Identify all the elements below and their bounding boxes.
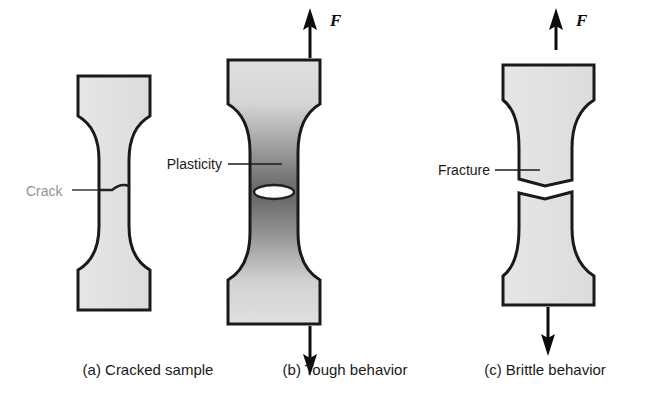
crack-label: Crack [26, 183, 64, 199]
specimen-lower-half-c [503, 192, 594, 305]
fracture-label: Fracture [438, 162, 490, 178]
panel-brittle-behavior: F Fracture (c) Brittle behavior [438, 8, 606, 378]
caption-b: (b) Tough behavior [283, 361, 408, 378]
force-label-b-top: F [329, 11, 342, 30]
panel-tough-behavior: F Plasticity (b) Tough behavior [167, 8, 408, 378]
caption-a: (a) Cracked sample [83, 361, 214, 378]
panel-cracked-sample: Crack (a) Cracked sample [26, 76, 213, 378]
blunted-crack-opening-b [254, 185, 294, 199]
plasticity-label: Plasticity [167, 156, 222, 172]
specimen-body-a [78, 76, 150, 310]
fracture-behavior-figure: Crack (a) Cracked sample F Plasticity (b… [0, 0, 660, 396]
caption-c: (c) Brittle behavior [484, 361, 606, 378]
specimen-upper-half-c [503, 65, 594, 186]
force-label-c-top: F [575, 11, 588, 30]
